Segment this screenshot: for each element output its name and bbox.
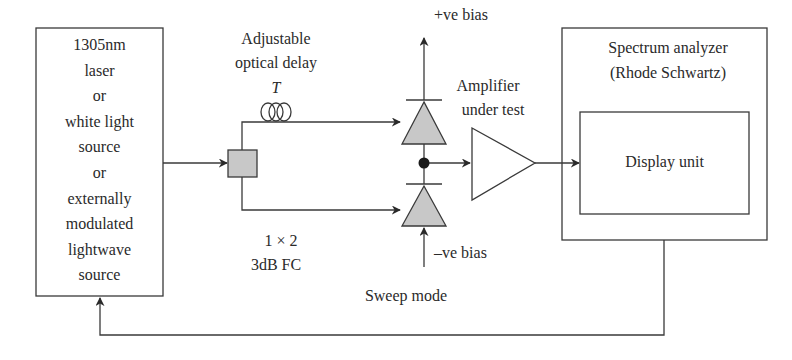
source-line: lightwave xyxy=(36,237,163,263)
bottom-branch-line xyxy=(242,177,400,210)
source-line: or xyxy=(36,83,163,109)
delay-label-line2: optical delay xyxy=(216,53,336,72)
fiber-coil-icon xyxy=(261,103,291,121)
source-box-label: 1305nm laser or white light source or ex… xyxy=(36,32,163,288)
coupler-label-line1: 1 × 2 xyxy=(236,231,326,250)
delay-label-line1: Adjustable xyxy=(226,29,326,48)
analyzer-label-line2: (Rhode Schwartz) xyxy=(578,63,758,82)
amplifier-label-line2: under test xyxy=(448,100,538,119)
source-line: or xyxy=(36,160,163,186)
bottom-photodiode-icon xyxy=(402,186,446,226)
amplifier-triangle-icon xyxy=(472,128,535,200)
positive-bias-label: +ve bias xyxy=(434,5,488,24)
negative-bias-label: –ve bias xyxy=(434,243,487,262)
spectrum-analyzer-box xyxy=(562,28,767,240)
top-photodiode-icon xyxy=(402,102,446,144)
top-branch-line xyxy=(242,122,400,150)
source-line: 1305nm xyxy=(36,32,163,58)
source-line: modulated xyxy=(36,211,163,237)
display-unit-label: Display unit xyxy=(580,152,749,171)
source-line: externally xyxy=(36,186,163,212)
amplifier-label-line1: Amplifier xyxy=(448,76,528,95)
source-line: white light xyxy=(36,109,163,135)
coupler-box xyxy=(228,150,257,177)
source-line: source xyxy=(36,134,163,160)
source-line: laser xyxy=(36,58,163,84)
delay-symbol: T xyxy=(266,78,286,97)
analyzer-label-line1: Spectrum analyzer xyxy=(578,38,758,57)
junction-dot xyxy=(419,158,430,169)
sweep-mode-label: Sweep mode xyxy=(346,286,466,305)
coupler-label-line2: 3dB FC xyxy=(226,255,326,274)
source-line: source xyxy=(36,262,163,288)
